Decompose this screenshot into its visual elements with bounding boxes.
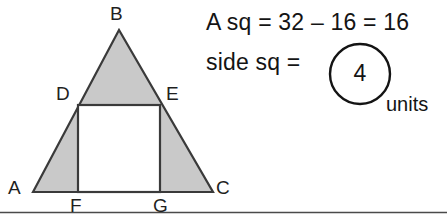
vertex-label-e: E [166, 84, 179, 103]
vertex-label-b: B [110, 4, 123, 23]
inscribed-square-defg [78, 105, 160, 192]
circled-answer-value: 4 [330, 62, 390, 85]
vertex-label-a: A [8, 178, 21, 197]
units-label: units [386, 94, 428, 114]
side-equation-line: side sq = [206, 51, 301, 74]
vertex-label-g: G [153, 196, 168, 215]
area-equation-line: A sq = 32 – 16 = 16 [206, 11, 409, 34]
vertex-label-f: F [70, 196, 82, 215]
vertex-label-c: C [216, 178, 230, 197]
worksheet-canvas: B D E A C F G A sq = 32 – 16 = 16 side s… [0, 0, 447, 218]
vertex-label-d: D [56, 84, 70, 103]
